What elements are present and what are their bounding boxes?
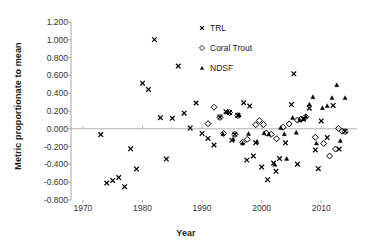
data-point (327, 153, 333, 159)
y-tick-label: 0.600 (32, 71, 68, 79)
data-point (313, 148, 318, 153)
data-point (255, 140, 259, 144)
data-point (134, 167, 139, 172)
data-point (246, 131, 250, 135)
data-point (285, 156, 289, 160)
x-tick-label: 1990 (182, 203, 222, 213)
data-point (212, 143, 217, 148)
data-point (289, 102, 294, 107)
data-point (158, 115, 163, 120)
data-point (152, 37, 157, 42)
data-point (307, 106, 312, 111)
x-tick-label: 2010 (301, 203, 341, 213)
data-point (274, 169, 279, 174)
data-point (205, 121, 211, 127)
data-point (164, 157, 169, 162)
data-point (241, 141, 245, 145)
legend-label: Coral Trout (210, 43, 252, 53)
x-tick-label: 1970 (63, 203, 103, 213)
data-point (279, 126, 283, 130)
data-point (122, 184, 127, 189)
data-point (320, 106, 324, 110)
data-point (241, 101, 246, 106)
data-point (110, 178, 115, 183)
data-point (128, 147, 133, 152)
y-tick-label: 1.200 (32, 18, 68, 26)
data-point (291, 115, 295, 119)
y-tick-label: -0.200 (32, 143, 68, 151)
data-point (294, 130, 298, 134)
y-tick-label: 1.000 (32, 36, 68, 44)
legend-marker-triangle-filled (196, 62, 208, 74)
data-point (282, 132, 286, 136)
data-point (146, 87, 151, 92)
y-tick-label: 0.200 (32, 107, 68, 115)
data-point (331, 103, 336, 108)
data-point (274, 136, 280, 142)
data-point (330, 96, 334, 100)
data-point (98, 132, 103, 137)
data-point (176, 64, 181, 69)
legend-marker-diamond-open (196, 42, 208, 54)
data-point (104, 181, 109, 186)
y-tick-label: 0.000 (32, 125, 68, 133)
data-point (335, 83, 339, 87)
data-point (251, 154, 256, 159)
data-point (247, 104, 252, 109)
y-axis-title: Metric proportionate to mean (13, 31, 23, 181)
data-point (343, 96, 347, 100)
data-point (211, 104, 217, 110)
data-point (194, 101, 199, 106)
data-point (286, 121, 292, 127)
data-point (140, 81, 145, 86)
data-point (295, 162, 300, 167)
data-point (206, 136, 211, 141)
y-tick-label: 0.400 (32, 89, 68, 97)
data-point (200, 131, 205, 136)
data-point (307, 102, 311, 106)
data-point (182, 111, 187, 116)
data-point (312, 134, 318, 140)
data-point (259, 165, 264, 170)
x-tick-label: 2000 (242, 203, 282, 213)
data-point (325, 104, 329, 108)
legend-label: NDSF (210, 63, 233, 73)
legend-label: TRL (210, 23, 226, 33)
legend-marker-cross (196, 22, 208, 34)
y-tick-label: 0.800 (32, 54, 68, 62)
data-point (170, 116, 175, 121)
data-point (277, 156, 282, 161)
data-point (316, 166, 321, 171)
x-tick-label: 1980 (123, 203, 163, 213)
data-point (311, 95, 315, 99)
data-point (283, 141, 288, 146)
series-trl (98, 37, 347, 189)
data-point (314, 141, 318, 145)
data-point (244, 158, 249, 163)
data-point (116, 175, 121, 180)
data-point (292, 71, 297, 76)
data-point (338, 139, 342, 143)
data-point (319, 119, 324, 124)
data-point (321, 140, 327, 146)
y-tick-label: -0.400 (32, 160, 68, 168)
x-axis-tick-labels: 19701980199020002010 (0, 203, 372, 217)
y-tick-label: -0.600 (32, 178, 68, 186)
data-point (325, 135, 330, 140)
scatter-chart: Metric proportionate to mean Year 1.2001… (0, 0, 372, 245)
data-point (265, 177, 270, 182)
data-point (188, 126, 193, 131)
